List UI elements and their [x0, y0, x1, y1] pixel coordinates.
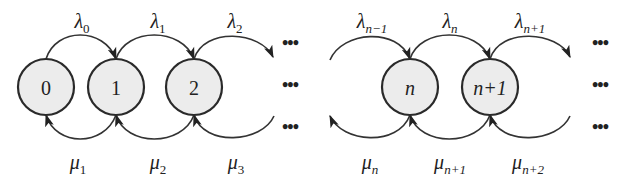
death-arc-1-0: [46, 115, 116, 139]
death-arc-n1-n: [410, 115, 490, 139]
ellipsis-markers: ••••••••••••••••••: [282, 33, 609, 137]
state-node-2: 2: [166, 59, 222, 115]
death-arc-in-n1: [490, 115, 570, 138]
death-symbol: μ: [227, 151, 238, 174]
death-symbol: μ: [511, 151, 522, 174]
right-ellipsis-icon: •••: [592, 33, 609, 53]
birth-arc-n-n1: [410, 35, 490, 59]
birth-rate-label: λn+1: [514, 10, 545, 36]
death-rate-label: μ3: [227, 151, 245, 177]
middle-ellipsis-icon: •••: [282, 75, 299, 95]
state-transition-graph: 012nn+1 λ0λ1λ2λn−1λnλn+1μ1μ2μ3μnμn+1μn+2…: [0, 0, 627, 184]
birth-arc-in-n: [330, 37, 410, 60]
birth-symbol: λ: [149, 10, 159, 32]
death-rate-label: μ1: [69, 151, 87, 177]
state-label: n+1: [473, 77, 507, 99]
death-rate-label: μn+1: [433, 151, 466, 177]
state-label: n: [405, 77, 415, 99]
birth-symbol: λ: [73, 10, 83, 32]
state-node-n: n: [382, 59, 438, 115]
death-symbol: μ: [361, 151, 372, 174]
death-arc-n-out: [330, 115, 410, 138]
state-node-1: 1: [88, 59, 144, 115]
death-rate-label: μn+2: [511, 151, 544, 177]
death-symbol: μ: [433, 151, 444, 174]
birth-subscript: 1: [159, 21, 166, 36]
middle-ellipsis-icon: •••: [282, 117, 299, 137]
death-arc-2-1: [116, 115, 194, 139]
death-subscript: n: [372, 162, 379, 177]
death-subscript: n+2: [522, 162, 544, 177]
birth-arc-n1-out: [490, 36, 570, 59]
state-node-n+1: n+1: [462, 59, 518, 115]
middle-ellipsis-icon: •••: [282, 33, 299, 53]
death-rate-label: μ2: [149, 151, 167, 177]
state-nodes: 012nn+1: [18, 59, 518, 115]
state-label: 2: [189, 77, 199, 99]
birth-symbol: λ: [226, 10, 236, 32]
birth-subscript: 2: [236, 21, 243, 36]
birth-rate-label: λn: [441, 10, 457, 36]
death-subscript: n+1: [444, 162, 466, 177]
death-symbol: μ: [69, 151, 80, 174]
state-node-0: 0: [18, 59, 74, 115]
death-subscript: 3: [238, 162, 245, 177]
birth-subscript: n: [451, 21, 458, 36]
death-symbol: μ: [149, 151, 160, 174]
death-arc-in-2: [194, 115, 274, 138]
birth-rate-label: λ2: [226, 10, 242, 36]
right-ellipsis-icon: •••: [592, 75, 609, 95]
birth-arc-1-2: [116, 35, 194, 59]
birth-symbol: λ: [356, 10, 366, 32]
death-subscript: 1: [80, 162, 87, 177]
death-subscript: 2: [160, 162, 167, 177]
birth-death-diagram: 012nn+1 λ0λ1λ2λn−1λnλn+1μ1μ2μ3μnμn+1μn+2…: [0, 0, 627, 184]
birth-subscript: n−1: [365, 21, 387, 36]
birth-symbol: λ: [441, 10, 451, 32]
birth-subscript: n+1: [523, 21, 545, 36]
right-ellipsis-icon: •••: [592, 117, 609, 137]
birth-arc-2-out: [194, 36, 273, 59]
birth-rate-label: λ0: [73, 10, 89, 36]
birth-rate-label: λ1: [149, 10, 165, 36]
state-label: 1: [111, 77, 121, 99]
state-label: 0: [41, 77, 51, 99]
birth-rate-label: λn−1: [356, 10, 387, 36]
birth-symbol: λ: [514, 10, 524, 32]
birth-subscript: 0: [83, 21, 90, 36]
death-rate-label: μn: [361, 151, 379, 177]
birth-arc-0-1: [46, 35, 116, 59]
